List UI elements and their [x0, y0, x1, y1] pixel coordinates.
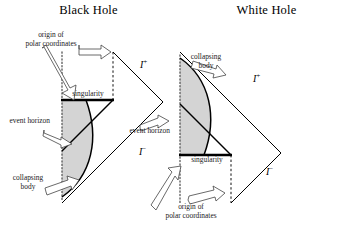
wh-scri-minus-label: I− — [266, 165, 273, 177]
white-hole-diagram — [178, 0, 355, 235]
bh-scri-plus-label: I+ — [140, 58, 147, 70]
wh-event-horizon-label: event horizon — [120, 127, 170, 135]
wh-origin-label-line2: polar coordinates — [148, 212, 234, 220]
bh-scri-plus-line — [113, 52, 163, 102]
bh-collapsing-body-label-line2: body — [4, 183, 52, 191]
figure-canvas: Black Hole — [0, 0, 355, 235]
white-hole-panel: White Hole — [178, 0, 355, 235]
wh-scri-minus-line — [231, 153, 281, 203]
black-hole-panel: Black Hole — [0, 0, 177, 235]
bh-origin-label-line2: polar coordinates — [8, 40, 94, 48]
wh-singularity-label: singularity — [180, 156, 234, 164]
bh-event-horizon-label: event horizon — [0, 117, 50, 125]
wh-scri-plus-label: I+ — [253, 72, 260, 84]
bh-singularity-label: singularity — [61, 90, 115, 98]
bh-scri-minus-label: I− — [139, 145, 146, 157]
wh-collapsing-body-label-line2: body — [182, 62, 230, 70]
